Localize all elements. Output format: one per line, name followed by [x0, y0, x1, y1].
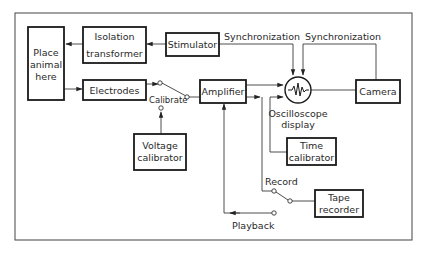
record-label: Record	[265, 176, 298, 187]
amplifier-label: Amplifier	[202, 86, 245, 97]
node-amplifier: Amplifier	[200, 80, 246, 103]
isolation-line1: Isolation	[94, 31, 134, 42]
record-switch-blade[interactable]	[276, 192, 288, 200]
switch-terminal-voltage	[159, 106, 163, 110]
oscilloscope-line2: display	[281, 119, 315, 130]
edge-sync-camera	[303, 44, 376, 80]
node-isolation-transformer: Isolation transformer	[83, 27, 146, 63]
place-animal-line1: Place	[33, 47, 58, 58]
sync-stimulator-label: Synchronization	[224, 31, 300, 42]
sync-camera-label: Synchronization	[305, 31, 381, 42]
calibrate-label: Calibrate	[149, 95, 188, 105]
voltage-line1: Voltage	[142, 140, 178, 151]
record-switch-pivot	[288, 199, 292, 203]
edge-sync-stimulator	[219, 44, 293, 75]
oscilloscope-line1: Oscilloscope	[268, 108, 327, 119]
switch-terminal-electrodes	[158, 81, 162, 85]
node-camera: Camera	[356, 80, 400, 103]
edge-playback-amplifier	[224, 104, 272, 213]
place-animal-line2: animal	[30, 59, 62, 70]
timecal-line1: Time	[299, 140, 323, 151]
node-place-animal: Place animal here	[28, 27, 64, 100]
isolation-line2: transformer	[86, 48, 142, 59]
camera-label: Camera	[359, 86, 396, 97]
electrodes-label: Electrodes	[90, 85, 140, 96]
node-voltage-calibrator: Voltage calibrator	[134, 134, 186, 170]
place-animal-line3: here	[35, 71, 57, 82]
playback-terminal	[272, 211, 276, 215]
record-terminal	[272, 189, 276, 193]
node-tape-recorder: Tape recorder	[315, 190, 363, 217]
stimulator-label: Stimulator	[168, 39, 218, 50]
tape-line2: recorder	[319, 204, 359, 215]
node-electrodes: Electrodes	[83, 80, 146, 100]
block-diagram: Place animal here Isolation transformer …	[0, 0, 423, 255]
tape-line1: Tape	[327, 192, 350, 203]
playback-label: Playback	[232, 220, 275, 231]
node-time-calibrator: Time calibrator	[287, 138, 336, 165]
timecal-line2: calibrator	[289, 152, 335, 163]
node-stimulator: Stimulator	[166, 33, 219, 56]
voltage-line2: calibrator	[137, 152, 183, 163]
